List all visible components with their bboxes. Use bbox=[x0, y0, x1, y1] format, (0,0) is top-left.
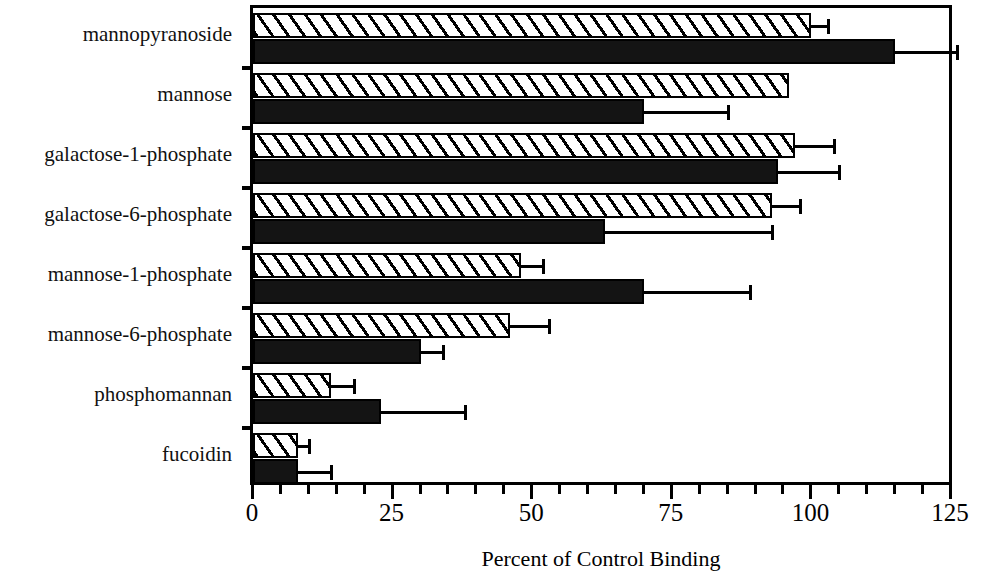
category-label: galactose-1-phosphate bbox=[44, 144, 232, 165]
bar-hatched bbox=[253, 13, 811, 38]
bar-hatched bbox=[253, 373, 331, 398]
category-axis-labels: mannopyranosidemannosegalactose-1-phosph… bbox=[0, 5, 242, 485]
error-bar-cap bbox=[308, 439, 311, 454]
x-tick-minor bbox=[921, 485, 924, 494]
error-bar-line bbox=[521, 265, 543, 268]
error-bar-line bbox=[644, 111, 728, 114]
x-tick-minor bbox=[474, 485, 477, 494]
x-tick-label: 100 bbox=[792, 500, 830, 525]
y-axis-tick bbox=[242, 66, 253, 70]
x-tick-minor bbox=[754, 485, 757, 494]
error-bar-line bbox=[331, 385, 353, 388]
error-bar-line bbox=[298, 471, 332, 474]
y-axis-tick bbox=[242, 306, 253, 310]
x-tick-major bbox=[391, 485, 394, 499]
category-label: mannose-6-phosphate bbox=[48, 324, 232, 345]
x-tick-minor bbox=[642, 485, 645, 494]
x-tick-major bbox=[809, 485, 812, 499]
error-bar-cap bbox=[548, 319, 551, 334]
x-tick-major bbox=[670, 485, 673, 499]
error-bar-cap bbox=[771, 225, 774, 240]
x-tick-major bbox=[949, 485, 952, 499]
x-tick-minor bbox=[781, 485, 784, 494]
x-tick-minor bbox=[279, 485, 282, 494]
error-bar-line bbox=[811, 25, 828, 28]
error-bar-line bbox=[772, 205, 800, 208]
bar-solid bbox=[253, 399, 381, 424]
bar-solid bbox=[253, 339, 421, 364]
category-label: mannose-1-phosphate bbox=[48, 264, 232, 285]
plot-area bbox=[250, 5, 952, 485]
x-tick-minor bbox=[586, 485, 589, 494]
error-bar-cap bbox=[827, 19, 830, 34]
bar-solid bbox=[253, 99, 644, 124]
bar-hatched bbox=[253, 193, 772, 218]
error-bar-cap bbox=[838, 165, 841, 180]
x-tick-label: 0 bbox=[246, 500, 259, 525]
x-tick-minor bbox=[307, 485, 310, 494]
category-label: fucoidin bbox=[162, 444, 232, 465]
error-bar-cap bbox=[799, 199, 802, 214]
bar-solid bbox=[253, 459, 298, 484]
x-tick-minor bbox=[335, 485, 338, 494]
x-tick-minor bbox=[837, 485, 840, 494]
bar-solid bbox=[253, 279, 644, 304]
x-tick-major bbox=[530, 485, 533, 499]
error-bar-line bbox=[644, 291, 750, 294]
bar-solid bbox=[253, 219, 605, 244]
bar-hatched bbox=[253, 133, 795, 158]
y-axis-tick bbox=[242, 126, 253, 130]
error-bar-cap bbox=[353, 379, 356, 394]
plot-inner bbox=[253, 8, 949, 482]
x-tick-minor bbox=[893, 485, 896, 494]
x-tick-minor bbox=[558, 485, 561, 494]
x-axis-title: Percent of Control Binding bbox=[250, 548, 952, 570]
x-tick-minor bbox=[865, 485, 868, 494]
x-tick-major bbox=[251, 485, 254, 499]
x-axis-ticks bbox=[250, 485, 952, 501]
y-axis-tick bbox=[242, 186, 253, 190]
bar-solid bbox=[253, 159, 778, 184]
error-bar-cap bbox=[956, 45, 959, 60]
error-bar-cap bbox=[749, 285, 752, 300]
x-tick-minor bbox=[363, 485, 366, 494]
error-bar-cap bbox=[330, 465, 333, 480]
error-bar-line bbox=[795, 145, 834, 148]
bar-solid bbox=[253, 39, 895, 64]
error-bar-cap bbox=[727, 105, 730, 120]
x-tick-label: 50 bbox=[519, 500, 544, 525]
category-label: mannopyranoside bbox=[83, 24, 232, 45]
y-axis-tick bbox=[242, 366, 253, 370]
x-tick-minor bbox=[502, 485, 505, 494]
y-axis-tick bbox=[242, 246, 253, 250]
bar-hatched bbox=[253, 253, 521, 278]
error-bar-line bbox=[510, 325, 549, 328]
x-tick-minor bbox=[446, 485, 449, 494]
x-tick-minor bbox=[614, 485, 617, 494]
error-bar-line bbox=[778, 171, 839, 174]
chart-figure: mannopyranosidemannosegalactose-1-phosph… bbox=[0, 0, 981, 585]
category-label: mannose bbox=[157, 84, 232, 105]
x-tick-minor bbox=[726, 485, 729, 494]
category-label: phosphomannan bbox=[94, 384, 232, 405]
error-bar-line bbox=[381, 411, 465, 414]
x-tick-minor bbox=[419, 485, 422, 494]
bar-hatched bbox=[253, 433, 298, 458]
x-tick-label: 125 bbox=[931, 500, 969, 525]
y-axis-tick bbox=[242, 426, 253, 430]
error-bar-cap bbox=[833, 139, 836, 154]
error-bar-cap bbox=[442, 345, 445, 360]
error-bar-line bbox=[605, 231, 773, 234]
x-axis-tick-labels: 0255075100125 bbox=[250, 500, 952, 534]
error-bar-cap bbox=[464, 405, 467, 420]
x-tick-label: 75 bbox=[658, 500, 683, 525]
error-bar-line bbox=[421, 351, 443, 354]
error-bar-line bbox=[895, 51, 956, 54]
bar-hatched bbox=[253, 73, 789, 98]
error-bar-cap bbox=[542, 259, 545, 274]
x-tick-minor bbox=[698, 485, 701, 494]
bar-hatched bbox=[253, 313, 510, 338]
x-tick-label: 25 bbox=[379, 500, 404, 525]
category-label: galactose-6-phosphate bbox=[44, 204, 232, 225]
